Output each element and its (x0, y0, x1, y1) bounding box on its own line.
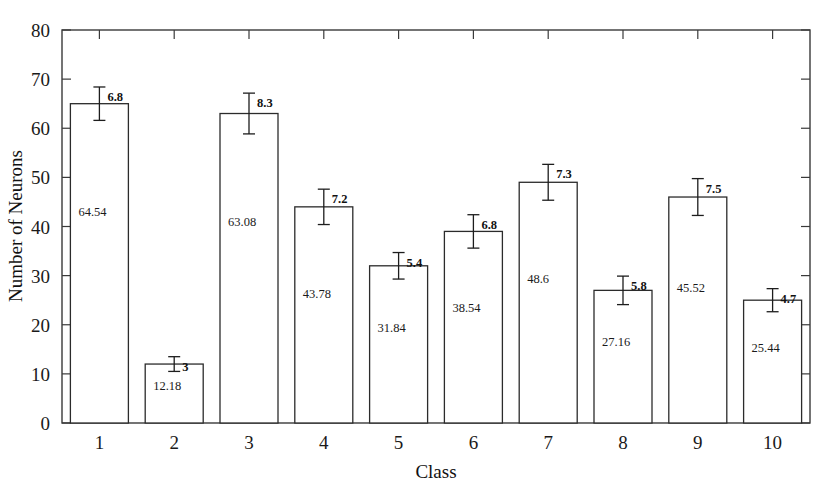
bar[interactable] (370, 266, 428, 423)
x-tick-label: 9 (693, 432, 703, 453)
error-value-label: 4.7 (781, 292, 797, 306)
y-tick-label: 10 (31, 364, 50, 385)
x-tick-label: 10 (763, 432, 782, 453)
x-tick-label: 5 (394, 432, 404, 453)
bar[interactable] (295, 207, 353, 423)
x-axis-title: Class (415, 461, 456, 482)
y-tick-label: 0 (41, 413, 51, 434)
x-tick-label: 3 (244, 432, 254, 453)
x-tick-label: 1 (95, 432, 105, 453)
bar[interactable] (444, 231, 502, 423)
bar-value-label: 45.52 (677, 281, 705, 295)
bar-chart: 01020304050607080 12345678910 64.546.812… (0, 0, 834, 488)
bar-value-label: 31.84 (378, 321, 407, 335)
bar[interactable] (519, 182, 577, 423)
bar[interactable] (669, 197, 727, 423)
bar-value-label: 38.54 (452, 301, 481, 315)
bar-value-label: 12.18 (153, 379, 181, 393)
bar[interactable] (220, 114, 278, 423)
y-tick-label: 70 (31, 69, 50, 90)
error-value-label: 3 (182, 360, 188, 374)
error-value-label: 5.8 (631, 279, 647, 293)
y-axis-title: Number of Neurons (5, 150, 26, 302)
bar-value-label: 25.44 (752, 341, 781, 355)
y-tick-label: 80 (31, 20, 50, 41)
x-tick-label: 2 (169, 432, 179, 453)
y-tick-label: 30 (31, 266, 50, 287)
y-tick-label: 20 (31, 315, 50, 336)
y-tick-label: 60 (31, 118, 50, 139)
bar-value-label: 63.08 (228, 215, 256, 229)
error-value-label: 7.3 (556, 167, 572, 181)
error-value-label: 6.8 (107, 90, 123, 104)
bar[interactable] (594, 290, 652, 423)
bar-series (70, 104, 801, 423)
bar[interactable] (744, 300, 802, 423)
error-value-label: 7.5 (706, 182, 722, 196)
y-tick-label: 40 (31, 217, 50, 238)
bar-value-label: 48.6 (527, 272, 549, 286)
bar[interactable] (70, 104, 128, 423)
x-tick-label: 8 (618, 432, 628, 453)
y-tick-label: 50 (31, 167, 50, 188)
bar-value-label: 27.16 (602, 335, 630, 349)
x-tick-label: 6 (469, 432, 479, 453)
x-tick-label: 4 (319, 432, 329, 453)
error-value-label: 8.3 (257, 96, 273, 110)
error-value-label: 7.2 (332, 192, 348, 206)
chart-container: 01020304050607080 12345678910 64.546.812… (0, 0, 834, 488)
bar-value-label: 43.78 (303, 287, 331, 301)
error-value-label: 5.4 (407, 256, 423, 270)
error-value-label: 6.8 (481, 218, 497, 232)
bar[interactable] (145, 364, 203, 423)
x-tick-label: 7 (543, 432, 553, 453)
bar-value-label: 64.54 (78, 205, 107, 219)
